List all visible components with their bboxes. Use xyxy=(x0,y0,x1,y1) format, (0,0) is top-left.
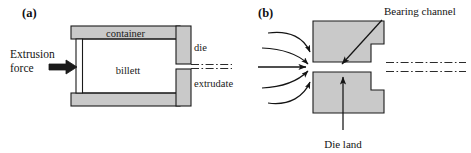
panel-a-label: (a) xyxy=(22,6,37,20)
die-lower-block xyxy=(176,69,191,106)
figure-canvas: (a) Extrusion force container billett xyxy=(0,0,471,153)
die-label: die xyxy=(194,42,207,53)
extrusion-force-arrow xyxy=(49,60,77,74)
flow-arrow-lower-inner xyxy=(262,71,308,88)
container-label: container xyxy=(106,28,146,39)
die-half-lower xyxy=(313,72,384,113)
extrusion-force-label-line1: Extrusion xyxy=(10,48,55,60)
panel-b-label: (b) xyxy=(258,6,273,20)
billett-label: billett xyxy=(116,65,141,76)
flow-arrow-lower-outer xyxy=(268,82,310,104)
die-upper-block xyxy=(176,26,191,64)
flow-arrow-upper-inner xyxy=(262,48,308,64)
extrudate-label: extrudate xyxy=(194,78,233,89)
panel-b: (b) Bearing channel Die land xyxy=(258,5,466,150)
extrusion-figure: (a) Extrusion force container billett xyxy=(0,0,471,153)
extrusion-force-label-line2: force xyxy=(10,62,34,74)
bearing-channel-label: Bearing channel xyxy=(384,5,456,17)
container-bottom-block xyxy=(71,93,180,106)
ram-plunger xyxy=(76,39,83,93)
die-half-upper xyxy=(313,21,384,62)
panel-a: (a) Extrusion force container billett xyxy=(10,6,233,106)
die-land-label: Die land xyxy=(324,138,362,150)
